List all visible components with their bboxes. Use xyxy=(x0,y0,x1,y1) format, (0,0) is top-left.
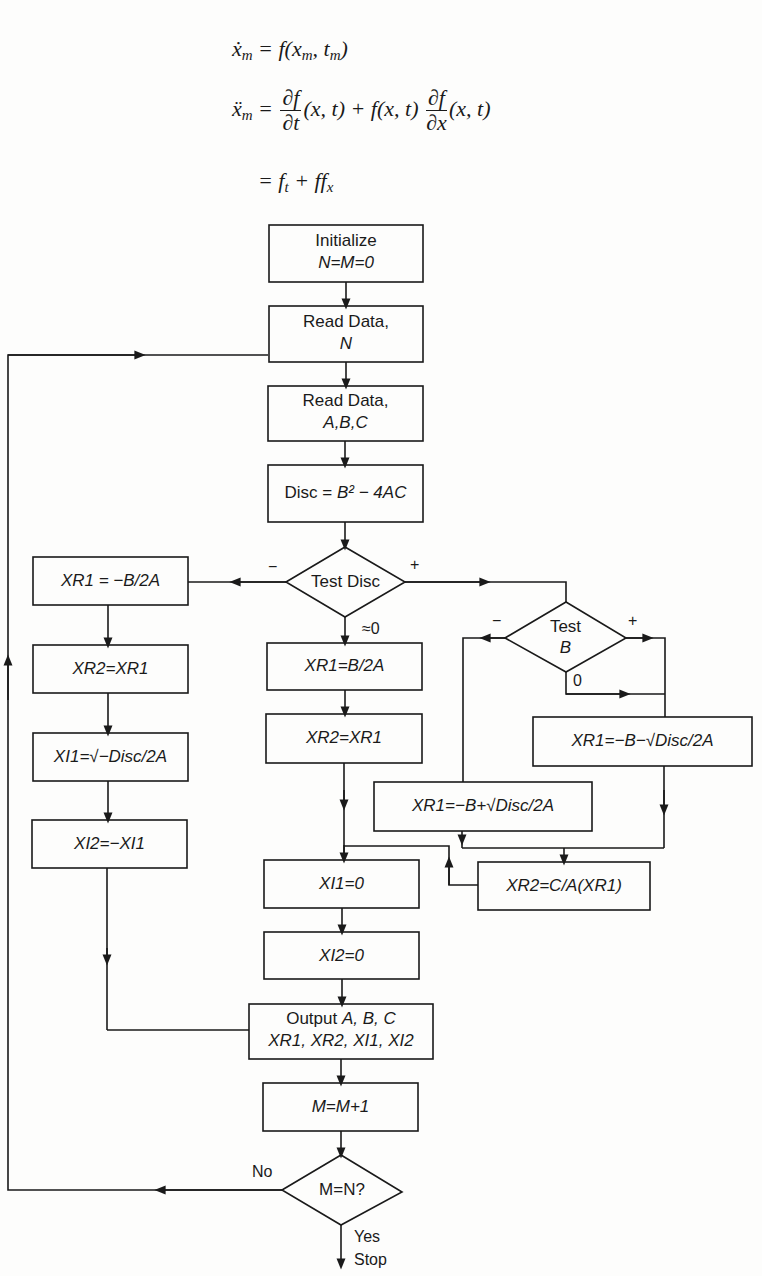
box-read-abc-label: Read Data, A,B,C xyxy=(268,390,423,434)
box-pos-xr1-minus-label: XR1=−B−√Disc/2A xyxy=(533,730,752,752)
test-disc-pos-branch: + xyxy=(410,556,419,574)
box-neg-xr1-label: XR1 = −B/2A xyxy=(33,570,188,592)
test-disc-neg-branch: − xyxy=(268,558,277,576)
test-disc-zero-branch: ≈0 xyxy=(362,620,380,638)
test-b-zero-branch: 0 xyxy=(573,672,582,690)
test-b-pos-branch: + xyxy=(628,612,637,630)
stop-terminal: Stop xyxy=(354,1251,387,1269)
diamond-m-eq-n-label: M=N? xyxy=(282,1179,402,1201)
box-neg-xi2-label: XI2=−XI1 xyxy=(32,833,187,855)
box-read-n-label: Read Data, N xyxy=(269,311,423,355)
box-pos-xr2-label: XR2=C/A(XR1) xyxy=(478,875,650,897)
m-eq-n-yes-branch: Yes xyxy=(354,1228,380,1246)
test-b-neg-branch: − xyxy=(492,612,501,630)
box-output-label: Output A, B, C XR1, XR2, XI1, XI2 xyxy=(249,1008,433,1052)
box-neg-xr2-label: XR2=XR1 xyxy=(33,658,188,680)
box-zero-xr2-label: XR2=XR1 xyxy=(266,727,422,749)
box-xi2-zero-label: XI2=0 xyxy=(264,945,419,967)
box-xi1-zero-label: XI1=0 xyxy=(264,873,419,895)
diamond-test-disc-label: Test Disc xyxy=(286,571,405,593)
box-neg-xi1-label: XI1=√−Disc/2A xyxy=(33,746,188,768)
flowchart-lines xyxy=(0,0,762,1276)
box-increment-label: M=M+1 xyxy=(263,1096,418,1118)
m-eq-n-no-branch: No xyxy=(252,1163,272,1181)
textbook-page: ẋm = f(xm, tm) ẍm = ∂f∂t(x, t) + f(x, t)… xyxy=(0,0,762,1276)
box-pos-xr1-plus-label: XR1=−B+√Disc/2A xyxy=(374,795,592,817)
diamond-test-b-label: Test B xyxy=(505,616,626,658)
box-initialize-label: Initialize N=M=0 xyxy=(269,230,423,274)
box-zero-xr1-label: XR1=B/2A xyxy=(267,655,422,677)
box-disc-label: Disc = B² − 4AC xyxy=(268,482,423,504)
